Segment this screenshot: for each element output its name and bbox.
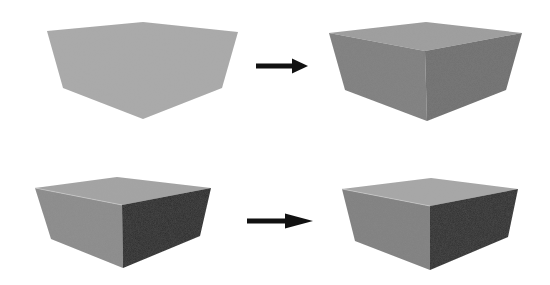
arrow-right-icon: [256, 59, 308, 74]
box-shaded-high-contrast: [35, 177, 211, 268]
arrow-shaft: [256, 64, 294, 69]
box-shaded-textured: [342, 178, 518, 270]
arrow-right-icon: [247, 214, 313, 229]
diagram-svg: [0, 0, 550, 285]
arrow-shaft: [247, 219, 287, 224]
diagram-canvas: [0, 0, 550, 285]
box-shaded-soft: [329, 22, 522, 121]
box-flat-silhouette: [47, 22, 238, 119]
box-silhouette-face: [47, 22, 238, 119]
arrow-head: [285, 214, 313, 229]
arrow-head: [292, 59, 308, 74]
